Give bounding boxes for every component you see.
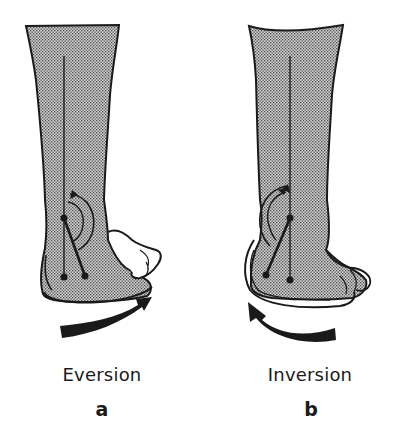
inversion-label: Inversion	[240, 364, 380, 385]
ankle-pivot-dot-a	[61, 215, 68, 222]
eversion-label: Eversion	[32, 364, 172, 385]
heel-dot-everted-a	[82, 273, 89, 280]
panel-b-inversion	[245, 25, 370, 342]
panel-letter-a: a	[82, 398, 122, 420]
heel-dot-neutral-b	[287, 277, 294, 284]
leg-foot-outline-b	[249, 25, 366, 300]
panel-letter-b: b	[291, 398, 331, 420]
heel-dot-neutral-a	[61, 274, 68, 281]
panel-a-eversion	[26, 25, 161, 338]
heel-dot-inverted-b	[263, 272, 270, 279]
ankle-pivot-dot-b	[287, 215, 294, 222]
